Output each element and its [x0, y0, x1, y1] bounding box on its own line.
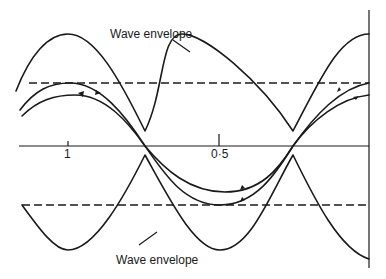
upper-envelope-label: Wave envelope — [110, 27, 193, 41]
tick-label-1: 1 — [64, 147, 71, 161]
arrow-icon — [240, 197, 245, 202]
lower-envelope-label: Wave envelope — [116, 253, 199, 267]
lower-envelope-curve — [22, 155, 369, 259]
wave-curve-inner — [22, 95, 369, 192]
upper-label-leader — [173, 40, 190, 52]
lower-label-leader — [139, 232, 157, 245]
wave-envelope-diagram: Wave envelope Wave envelope 1 0·5 — [0, 0, 386, 279]
arrow-icon — [337, 87, 341, 92]
tick-label-0-5: 0·5 — [211, 147, 229, 161]
